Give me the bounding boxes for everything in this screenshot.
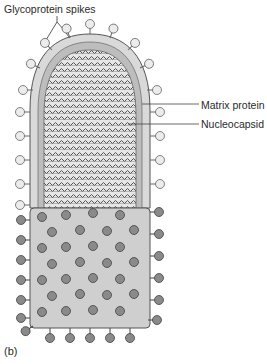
nucleocapsid bbox=[44, 50, 136, 208]
virus-diagram bbox=[0, 0, 267, 364]
